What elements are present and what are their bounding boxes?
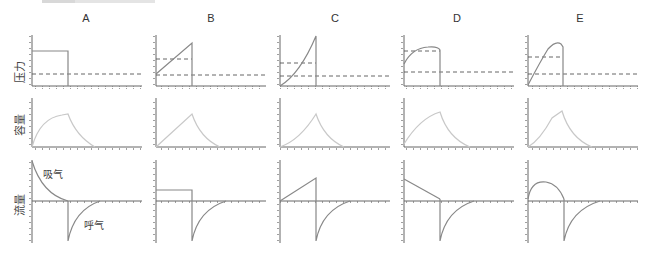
column-label-e: E bbox=[576, 12, 583, 24]
column-label-b: B bbox=[207, 12, 214, 24]
flow-insp-a bbox=[32, 161, 68, 201]
flow-exp-d bbox=[440, 199, 474, 241]
column-label-d: D bbox=[453, 12, 461, 24]
axis-ticks bbox=[29, 36, 638, 243]
column-label-c: C bbox=[331, 12, 339, 24]
pressure-curve-b bbox=[156, 43, 192, 86]
flow-insp-b bbox=[156, 190, 192, 201]
waveform-diagram: A B C D E 压力 容量 流量 bbox=[0, 0, 650, 258]
flow-insp-d bbox=[404, 179, 440, 199]
row-label-volume: 容量 bbox=[13, 114, 27, 136]
flow-exp-c bbox=[316, 201, 350, 241]
flow-exp-b bbox=[192, 201, 226, 241]
volume-curve-b bbox=[156, 114, 220, 147]
expiration-label: 呼气 bbox=[84, 219, 104, 231]
pressure-curve-d bbox=[404, 47, 440, 86]
pressure-curve-c bbox=[280, 36, 316, 86]
inspiration-label: 吸气 bbox=[43, 168, 63, 180]
volume-curve-d bbox=[404, 112, 470, 147]
row-label-flow: 流量 bbox=[13, 194, 27, 216]
flow-exp-e bbox=[564, 199, 600, 241]
pressure-curves bbox=[32, 36, 563, 86]
volume-curve-a bbox=[32, 114, 95, 147]
row-label-pressure: 压力 bbox=[14, 61, 27, 83]
volume-curves bbox=[32, 111, 592, 147]
pressure-reference-lines bbox=[32, 51, 638, 76]
pressure-curve-a bbox=[32, 51, 68, 86]
column-label-a: A bbox=[82, 12, 90, 24]
volume-curve-c bbox=[280, 114, 344, 147]
flow-insp-e bbox=[528, 182, 564, 199]
volume-curve-e bbox=[528, 111, 592, 147]
axes bbox=[32, 35, 638, 243]
flow-insp-c bbox=[280, 178, 316, 201]
pressure-curve-e bbox=[528, 43, 563, 86]
